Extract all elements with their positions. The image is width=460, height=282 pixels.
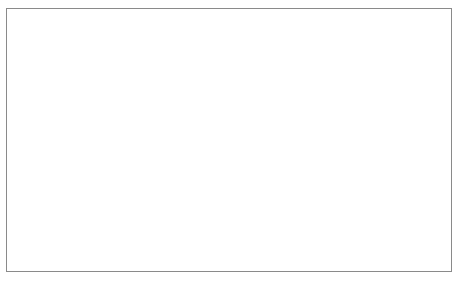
chart-figure: 0100200300400500600700800176517661783178…: [0, 0, 460, 282]
chart-frame: [6, 8, 452, 272]
